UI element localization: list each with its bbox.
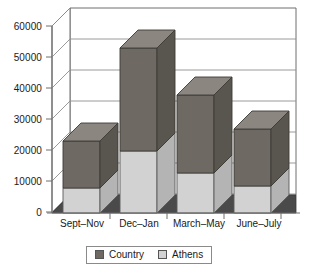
bar-segment-athens-dec-jan[interactable] [120,151,157,213]
plot-area [0,0,309,240]
chart-legend: Country Athens [86,246,212,264]
legend-item-athens[interactable]: Athens [158,249,203,260]
bar-group-sept-nov[interactable] [63,123,118,213]
legend-swatch-athens-icon [158,250,167,259]
bar-segment-country-march-may[interactable] [177,95,214,173]
bar-group-june-july[interactable] [234,111,289,213]
x-tick-label-sept-nov: Sept–Nov [60,218,104,230]
y-tick-marks [46,26,52,212]
legend-item-country[interactable]: Country [95,249,144,260]
legend-swatch-country-icon [95,250,104,259]
x-tick-label-march-may: March–May [173,218,225,230]
x-tick-label-dec-jan: Dec–Jan [119,218,158,230]
bar-segment-athens-sept-nov[interactable] [63,188,100,213]
bar-group-dec-jan[interactable] [120,30,175,213]
bar-segment-country-dec-jan[interactable] [120,48,157,151]
legend-label-athens: Athens [172,249,203,260]
bar-segment-country-sept-nov[interactable] [63,141,100,188]
bar-segment-country-side-dec-jan [157,30,175,151]
legend-label-country: Country [109,249,144,260]
x-axis: Sept–Nov Dec–Jan March–May June–July [44,218,306,236]
x-tick-label-june-july: June–July [236,218,281,230]
bar-segment-country-june-july[interactable] [234,129,271,186]
stacked-bar-chart: 60000 50000 40000 30000 20000 10000 0 [0,0,309,274]
bar-segment-athens-june-july[interactable] [234,186,271,213]
bar-group-march-may[interactable] [177,77,232,213]
bar-segment-athens-march-may[interactable] [177,173,214,213]
